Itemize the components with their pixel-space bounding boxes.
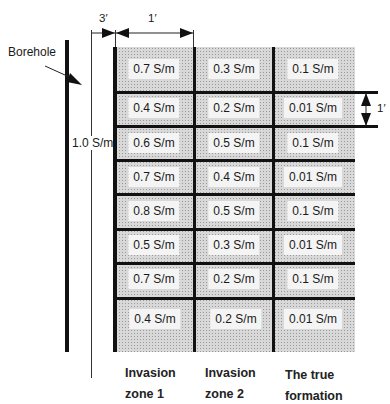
arrow-head-icon: [102, 28, 115, 38]
arrow-head-icon: [116, 28, 129, 38]
cell-value: 0.5 S/m: [208, 201, 259, 221]
cell-value: 0.3 S/m: [208, 235, 259, 255]
cell-value: 0.5 S/m: [128, 235, 179, 255]
pointer-arrow-icon: [67, 73, 82, 85]
cell-value: 0.1 S/m: [287, 201, 338, 221]
cell-value: 0.1 S/m: [287, 269, 338, 289]
borehole-conductivity-label: 1.0 S/m: [72, 136, 113, 150]
cell-value: 0.01 S/m: [284, 167, 342, 187]
cell-value: 0.4 S/m: [129, 309, 180, 329]
cell-value: 0.2 S/m: [210, 309, 261, 329]
cell-value: 0.8 S/m: [128, 201, 179, 221]
arrow-head-icon: [361, 113, 371, 126]
cell-value: 0.6 S/m: [128, 133, 179, 153]
borehole-gap-label: 3′: [99, 12, 108, 24]
cell-value: 0.01 S/m: [284, 309, 342, 329]
cell-value: 0.01 S/m: [284, 98, 342, 118]
column-title-invasion-zone-2: Invasion zone 2: [205, 363, 256, 404]
cell-value: 0.01 S/m: [284, 235, 342, 255]
cell-value: 0.1 S/m: [287, 59, 338, 79]
cell-value: 0.7 S/m: [128, 167, 179, 187]
borehole-label: Borehole: [8, 45, 56, 59]
column-title-true-formation: The true formation: [285, 365, 343, 404]
column-width-label: 1′: [148, 12, 157, 24]
row-height-label: 1′: [377, 102, 386, 114]
cell-value: 0.2 S/m: [208, 269, 259, 289]
cell-value: 0.7 S/m: [128, 59, 179, 79]
column-title-invasion-zone-1: Invasion zone 1: [125, 363, 176, 404]
cell-value: 0.7 S/m: [128, 269, 179, 289]
cell-value: 0.4 S/m: [208, 167, 259, 187]
arrow-head-icon: [180, 28, 193, 38]
cell-value: 0.1 S/m: [287, 133, 338, 153]
cell-value: 0.2 S/m: [208, 98, 259, 118]
arrow-head-icon: [361, 93, 371, 106]
cell-value: 0.3 S/m: [208, 59, 259, 79]
cell-value: 0.5 S/m: [208, 133, 259, 153]
cell-value: 0.4 S/m: [128, 98, 179, 118]
